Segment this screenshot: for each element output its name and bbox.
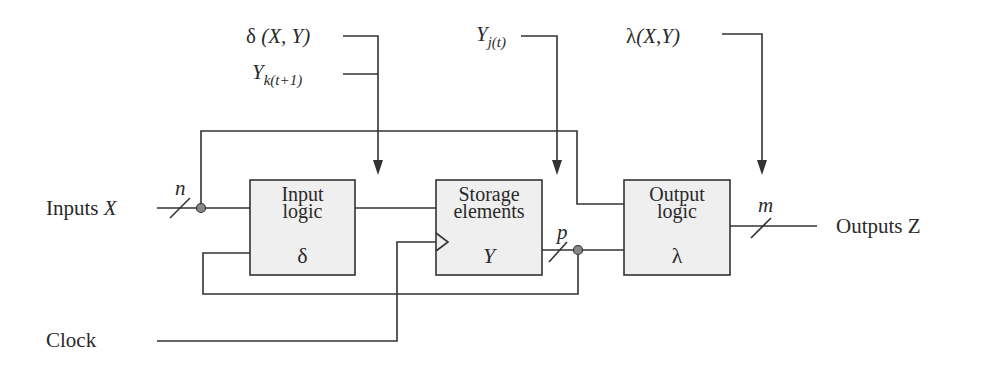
junction-inputs: [197, 204, 206, 213]
delta-args: (X, Y): [261, 24, 310, 48]
outputs-label: Outputs Z: [836, 216, 921, 237]
y-next-sub: k(t+1): [264, 72, 302, 88]
junction-state: [574, 246, 583, 255]
inputs-text: Inputs: [46, 196, 99, 220]
bus-width-m: m: [758, 195, 773, 216]
storage-elements-symbol: Y: [436, 243, 542, 269]
outputs-var: Z: [908, 214, 921, 238]
input-logic-symbol: δ: [250, 243, 355, 269]
delta-symbol: δ: [246, 24, 256, 48]
lambda-function-label: λ(X,Y): [626, 26, 680, 47]
outputs-text: Outputs: [836, 214, 903, 238]
arrow-delta-icon: [373, 160, 383, 175]
bus-slash-m: [751, 218, 771, 238]
y-current-sub: j(t): [488, 34, 506, 50]
y-next-state-label: Yk(t+1): [252, 62, 302, 83]
arrow-lambda-icon: [757, 160, 767, 175]
output-logic-title: Output logic: [624, 186, 730, 220]
clock-label: Clock: [46, 330, 96, 351]
bus-width-n: n: [175, 178, 186, 199]
y-next-base: Y: [252, 60, 264, 84]
y-current-base: Y: [476, 22, 488, 46]
lambda-args: (X,Y): [636, 24, 680, 48]
arrow-yj-icon: [552, 160, 562, 175]
bus-slash-p: [549, 242, 567, 262]
input-logic-line2: logic: [250, 203, 355, 220]
y-current-state-label: Yj(t): [476, 24, 506, 45]
lambda-symbol: λ: [626, 24, 636, 48]
input-logic-title: Input logic: [250, 186, 355, 220]
inputs-var: X: [104, 196, 117, 220]
delta-function-label: δ (X, Y): [246, 26, 310, 47]
inputs-label: Inputs X: [46, 198, 117, 219]
storage-elements-title: Storage elements: [436, 186, 542, 220]
storage-line2: elements: [436, 203, 542, 220]
output-logic-line2: logic: [624, 203, 730, 220]
output-logic-symbol: λ: [624, 243, 730, 269]
bus-width-p: p: [557, 222, 568, 243]
